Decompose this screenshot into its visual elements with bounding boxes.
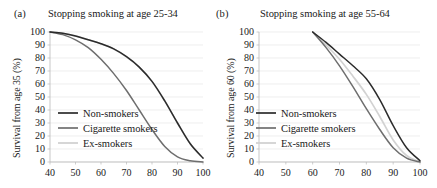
- x-tick-label-70: 70: [335, 167, 345, 178]
- y-tick-label-10: 10: [244, 143, 254, 154]
- y-tick-label-0: 0: [249, 156, 254, 167]
- x-tick-label-90: 90: [388, 167, 398, 178]
- y-tick-label-10: 10: [35, 143, 45, 154]
- y-tick-label-40: 40: [244, 104, 254, 115]
- x-tick-label-70: 70: [122, 167, 132, 178]
- x-tick-label-60: 60: [96, 167, 106, 178]
- panel-b: (b) Stopping smoking at age 55-64 Surviv…: [212, 0, 437, 188]
- y-tick-label-70: 70: [244, 65, 254, 76]
- x-tick-label-80: 80: [361, 167, 371, 178]
- panel-a-plot: 0102030405060708090100405060708090100Non…: [0, 0, 212, 188]
- x-tick-label-40: 40: [45, 167, 55, 178]
- x-tick-label-40: 40: [254, 167, 264, 178]
- x-tick-label-50: 50: [71, 167, 81, 178]
- y-tick-label-90: 90: [35, 39, 45, 50]
- figure-survival-curves: (a) Stopping smoking at age 25-34 Surviv…: [0, 0, 437, 188]
- y-tick-label-100: 100: [30, 26, 45, 37]
- x-tick-label-60: 60: [308, 167, 318, 178]
- y-tick-label-0: 0: [40, 156, 45, 167]
- x-tick-label-90: 90: [173, 167, 183, 178]
- legend-label-ex-smokers: Ex-smokers: [281, 138, 330, 149]
- y-tick-label-80: 80: [35, 52, 45, 63]
- y-tick-label-50: 50: [244, 91, 254, 102]
- y-tick-label-70: 70: [35, 65, 45, 76]
- x-tick-label-50: 50: [281, 167, 291, 178]
- y-tick-label-60: 60: [35, 78, 45, 89]
- x-tick-label-100: 100: [413, 167, 428, 178]
- x-tick-label-80: 80: [147, 167, 157, 178]
- panel-b-plot: 0102030405060708090100405060708090100Non…: [212, 0, 437, 188]
- legend-label-ex-smokers: Ex-smokers: [83, 138, 132, 149]
- legend-label-cigarette-smokers: Cigarette smokers: [83, 123, 157, 134]
- y-tick-label-20: 20: [35, 130, 45, 141]
- y-tick-label-20: 20: [244, 130, 254, 141]
- y-tick-label-40: 40: [35, 104, 45, 115]
- panel-a: (a) Stopping smoking at age 25-34 Surviv…: [0, 0, 212, 188]
- y-tick-label-80: 80: [244, 52, 254, 63]
- x-tick-label-100: 100: [196, 167, 211, 178]
- y-tick-label-50: 50: [35, 91, 45, 102]
- y-tick-label-90: 90: [244, 39, 254, 50]
- y-tick-label-60: 60: [244, 78, 254, 89]
- y-tick-label-30: 30: [244, 117, 254, 128]
- legend-label-non-smokers: Non-smokers: [281, 108, 336, 119]
- legend-label-non-smokers: Non-smokers: [83, 108, 138, 119]
- legend-label-cigarette-smokers: Cigarette smokers: [281, 123, 355, 134]
- y-tick-label-30: 30: [35, 117, 45, 128]
- y-tick-label-100: 100: [239, 26, 254, 37]
